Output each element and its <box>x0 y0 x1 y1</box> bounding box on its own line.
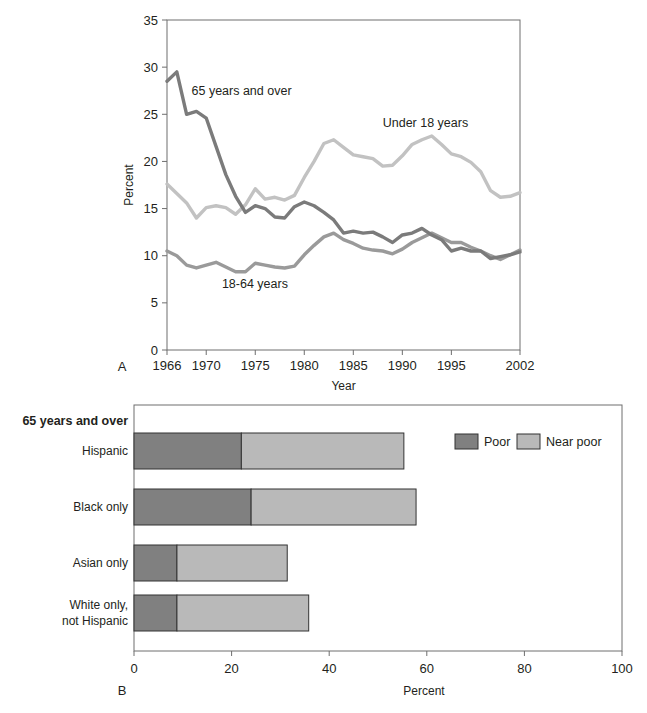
x-tick-label: 1975 <box>241 358 270 373</box>
x-tick-label: 60 <box>420 661 434 676</box>
bar-segment-poor[interactable] <box>134 595 177 631</box>
x-tick-label: 1990 <box>388 358 417 373</box>
bar-segment-poor[interactable] <box>134 489 251 525</box>
series-line <box>167 72 520 259</box>
series-line <box>167 136 520 218</box>
legend-label: Poor <box>484 435 510 449</box>
bar-row[interactable] <box>134 489 416 525</box>
y-tick-label: 10 <box>144 248 158 263</box>
bar-row[interactable] <box>134 595 309 631</box>
bar-category-label: Hispanic <box>82 444 128 458</box>
bar-segment-near-poor[interactable] <box>241 433 404 469</box>
figure-container: 05101520253035Percent1966197019751980198… <box>0 0 647 713</box>
x-tick-label: 1970 <box>192 358 221 373</box>
panel-b-plot: 65 years and overHispanicBlack onlyAsian… <box>22 405 632 698</box>
panel-a-plot: 05101520253035Percent1966197019751980198… <box>118 13 535 394</box>
panel-b-x-axis: 020406080100Percent <box>130 651 632 698</box>
x-tick-label: 2002 <box>506 358 535 373</box>
legend-label: Near poor <box>546 435 602 449</box>
y-tick-label: 5 <box>151 295 158 310</box>
bar-segment-near-poor[interactable] <box>251 489 416 525</box>
x-tick-label: 20 <box>224 661 238 676</box>
y-tick-label: 15 <box>144 201 158 216</box>
panel-b-letter: B <box>118 683 127 698</box>
y-tick-label: 35 <box>144 13 158 28</box>
x-tick-label: 1995 <box>437 358 466 373</box>
y-tick-label: 0 <box>151 343 158 358</box>
panel-a-plot-frame <box>167 20 520 350</box>
x-tick-label: 0 <box>130 661 137 676</box>
x-axis-title: Year <box>331 379 355 393</box>
panel-b-legend: PoorNear poor <box>455 434 602 449</box>
y-axis-title: Percent <box>122 164 136 206</box>
y-tick-label: 30 <box>144 60 158 75</box>
bar-category-label: White only, <box>70 598 128 612</box>
x-axis-title: Percent <box>403 684 445 698</box>
series-annotation: 18-64 years <box>222 277 288 291</box>
bar-segment-poor[interactable] <box>134 433 241 469</box>
y-tick-label: 25 <box>144 107 158 122</box>
panel-a-y-axis: 05101520253035Percent <box>122 13 167 358</box>
y-tick-label: 20 <box>144 154 158 169</box>
legend-swatch <box>455 434 478 449</box>
bar-segment-near-poor[interactable] <box>177 595 309 631</box>
panel-a-letter: A <box>118 359 127 374</box>
x-tick-label: 100 <box>611 661 633 676</box>
series-annotation: Under 18 years <box>383 116 468 130</box>
legend-swatch <box>517 434 540 449</box>
bar-row[interactable] <box>134 545 287 581</box>
panel-a-line-chart: 05101520253035Percent1966197019751980198… <box>0 0 647 395</box>
panel-b-bar-chart: 65 years and overHispanicBlack onlyAsian… <box>0 395 647 713</box>
bar-category-label: Asian only <box>73 556 128 570</box>
x-tick-label: 80 <box>517 661 531 676</box>
series-line <box>167 233 520 272</box>
x-tick-label: 1980 <box>290 358 319 373</box>
panel-a-x-axis: 19661970197519801985199019952002Year <box>153 350 535 393</box>
series-annotation: 65 years and over <box>192 84 292 98</box>
bar-segment-near-poor[interactable] <box>177 545 287 581</box>
bar-category-label: Black only <box>73 500 128 514</box>
x-tick-label: 40 <box>322 661 336 676</box>
bar-category-label: not Hispanic <box>62 614 128 628</box>
x-tick-label: 1966 <box>153 358 182 373</box>
panel-b-group-title: 65 years and over <box>22 414 128 428</box>
bar-segment-poor[interactable] <box>134 545 177 581</box>
bar-row[interactable] <box>134 433 404 469</box>
x-tick-label: 1985 <box>339 358 368 373</box>
